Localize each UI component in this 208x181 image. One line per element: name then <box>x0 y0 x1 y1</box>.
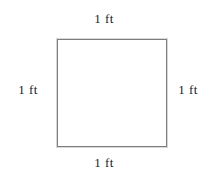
dimension-label-left: 1 ft <box>0 82 56 97</box>
dimension-label-top: 1 ft <box>0 11 208 26</box>
square-outline <box>56 38 168 148</box>
dimension-label-bottom: 1 ft <box>0 155 208 170</box>
geometry-figure: 1 ft 1 ft 1 ft 1 ft <box>0 0 208 181</box>
dimension-label-right: 1 ft <box>168 82 208 97</box>
